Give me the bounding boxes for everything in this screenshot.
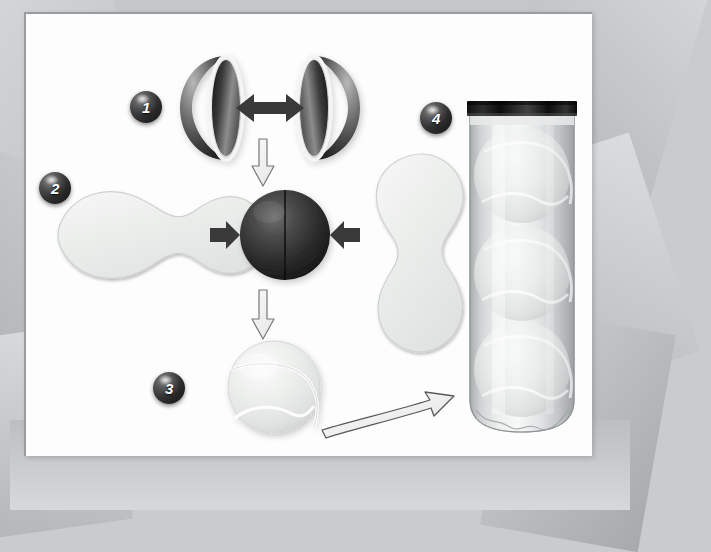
ball-canister	[470, 110, 574, 432]
step-2-badge[interactable]: 2	[39, 172, 71, 204]
arrow-felt-right	[330, 221, 360, 249]
flow-arrow-2-to-3	[252, 290, 274, 339]
finished-tennis-ball	[228, 341, 320, 433]
double-arrow-horizontal	[236, 94, 304, 122]
step-1-number: 1	[130, 91, 162, 123]
step-3-number: 3	[153, 372, 185, 404]
felt-panel-right	[376, 154, 463, 352]
step-4-number: 4	[420, 102, 452, 134]
flow-arrow-1-to-2	[252, 139, 274, 186]
diagram-panel: 1 2 3 4	[24, 12, 592, 456]
diagram-scene: 1 2 3 4	[26, 14, 592, 456]
step-3-badge[interactable]: 3	[153, 372, 185, 404]
step-1-badge[interactable]: 1	[130, 91, 162, 123]
rubber-hemisphere-right	[297, 56, 360, 160]
flow-arrow-3-to-4	[322, 392, 454, 438]
rubber-core-sphere	[240, 190, 330, 280]
process-illustration	[26, 14, 592, 456]
canister-cap	[467, 101, 577, 125]
step-2-number: 2	[39, 172, 71, 204]
step-4-badge[interactable]: 4	[420, 102, 452, 134]
rubber-hemisphere-left	[180, 56, 243, 160]
